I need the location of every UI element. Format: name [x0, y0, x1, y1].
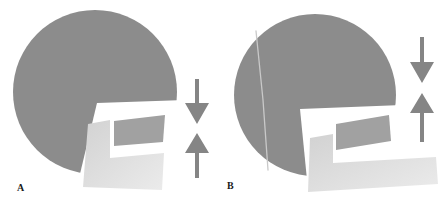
down-arrow-icon: [185, 79, 209, 124]
down-arrow-icon: [410, 37, 434, 83]
up-arrow-icon: [410, 93, 434, 142]
panel-b: B: [227, 14, 438, 200]
two-panel-figure: A B: [0, 0, 445, 200]
panel-label-a: A: [17, 182, 25, 193]
panel-a: A: [13, 10, 209, 200]
panel-label-b: B: [227, 180, 234, 191]
figure-canvas: A B: [0, 0, 445, 200]
